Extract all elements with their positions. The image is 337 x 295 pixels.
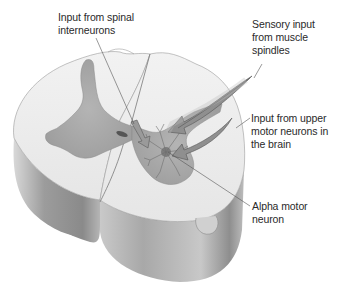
leader-sensory (254, 64, 262, 78)
label-spinal-interneurons-input: Input from spinal interneurons (58, 11, 134, 37)
label-alpha-motor-neuron: Alpha motor neuron (252, 200, 308, 226)
label-sensory-input-muscle-spindles: Sensory input from muscle spindles (252, 18, 315, 57)
label-upper-motor-neurons-input: Input from upper motor neurons in the br… (251, 112, 328, 151)
